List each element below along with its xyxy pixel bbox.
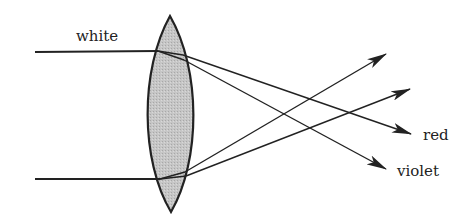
ray-bottom-upper xyxy=(185,54,386,172)
incoming-ray-top xyxy=(35,51,158,52)
lens-dispersion-diagram: white red violet xyxy=(0,0,475,219)
label-violet: violet xyxy=(396,162,439,180)
label-white: white xyxy=(76,27,118,45)
lens xyxy=(148,16,194,212)
ray-top-to-red xyxy=(183,55,411,134)
label-red: red xyxy=(423,126,449,144)
ray-bottom-lower xyxy=(186,89,410,176)
